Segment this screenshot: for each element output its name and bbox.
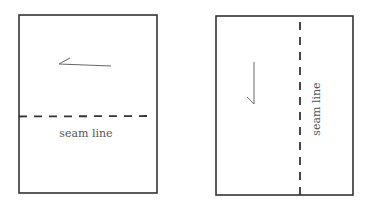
diagram-canvas: seam line seam line xyxy=(0,0,371,206)
right-panel: seam line xyxy=(216,16,353,195)
left-mark-long-stroke xyxy=(59,64,111,66)
left-seam-label: seam line xyxy=(59,127,112,140)
right-seam-label: seam line xyxy=(310,82,323,135)
right-panel-border xyxy=(216,16,353,195)
right-mark-short-stroke xyxy=(247,97,254,104)
right-check-mark-icon xyxy=(247,62,254,104)
left-mark-short-stroke xyxy=(59,58,70,64)
left-panel-border xyxy=(19,15,157,193)
left-seam-line xyxy=(19,116,148,117)
left-check-mark-icon xyxy=(59,58,111,66)
left-panel: seam line xyxy=(19,15,157,193)
